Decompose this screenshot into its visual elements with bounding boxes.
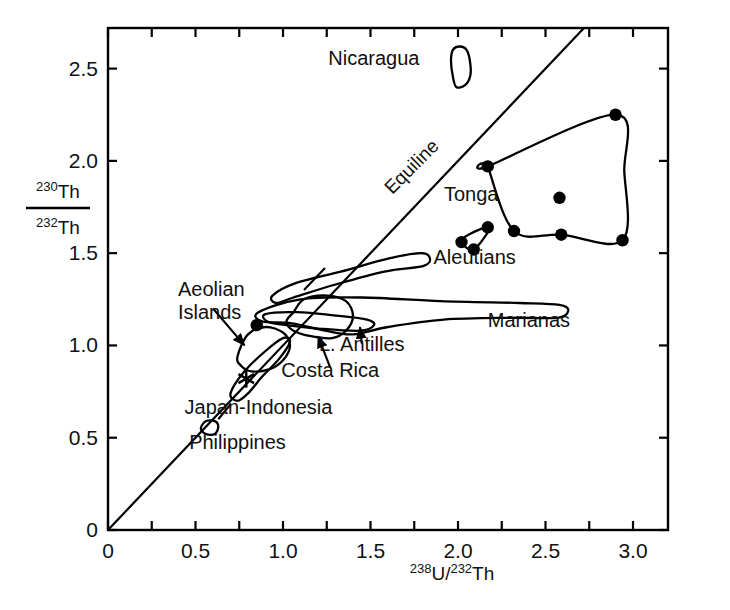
data-point-tonga-1 xyxy=(609,109,621,121)
figure-root: 00.51.01.52.02.53.0 00.51.01.52.02.5 Nic… xyxy=(0,0,730,610)
field-label-aleutians: Aleutians xyxy=(434,246,516,268)
data-point-tonga-satellite-cluster-2 xyxy=(482,221,494,233)
y-tick-label-3: 1.5 xyxy=(69,241,98,264)
y-tick-label-5: 2.5 xyxy=(69,57,98,80)
x-tick-label-4: 2.0 xyxy=(443,539,472,562)
x-tick-label-0: 0 xyxy=(102,539,114,562)
field-label-tonga: Tonga xyxy=(444,183,499,205)
data-point-tonga-5 xyxy=(553,192,565,204)
plot-background xyxy=(0,0,730,610)
x-tick-label-1: 0.5 xyxy=(181,539,210,562)
x-tick-label-2: 1.0 xyxy=(268,539,297,562)
filled-circle-aeolian xyxy=(251,319,263,331)
field-label-l-antilles: L. Antilles xyxy=(319,333,405,355)
field-label-marianas: Marianas xyxy=(488,309,570,331)
x-tick-label-5: 2.5 xyxy=(531,539,560,562)
y-tick-label-2: 1.0 xyxy=(69,333,98,356)
data-point-tonga-3 xyxy=(555,229,567,241)
y-tick-label-4: 2.0 xyxy=(69,149,98,172)
x-tick-label-3: 1.5 xyxy=(356,539,385,562)
th-u-isotope-scatter-plot: 00.51.01.52.02.53.0 00.51.01.52.02.5 Nic… xyxy=(0,0,730,610)
data-point-tonga-2 xyxy=(616,234,628,246)
field-label-nicaragua: Nicaragua xyxy=(328,47,420,69)
data-point-tonga-4 xyxy=(508,225,520,237)
field-label-aeolian-islands: AeolianIslands xyxy=(178,278,245,323)
y-tick-label-0: 0 xyxy=(86,518,98,541)
y-tick-label-1: 0.5 xyxy=(69,426,98,449)
data-point-tonga-0 xyxy=(482,160,494,172)
field-label-costa-rica: Costa Rica xyxy=(281,359,380,381)
field-label-philippines: Philippines xyxy=(189,431,286,453)
x-tick-label-6: 3.0 xyxy=(618,539,647,562)
field-label-japan-indonesia: Japan-Indonesia xyxy=(185,396,334,418)
